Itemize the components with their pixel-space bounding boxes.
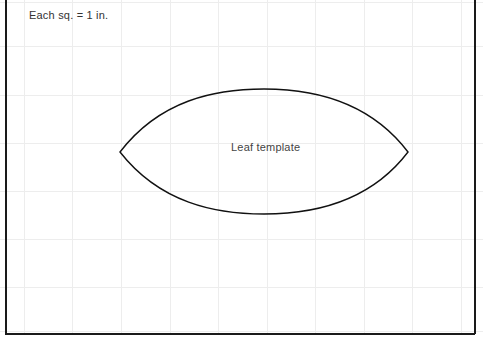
worksheet-page: Each sq. = 1 in. Leaf template — [0, 0, 483, 346]
leaf-template-drawing — [0, 0, 483, 346]
scale-note-label: Each sq. = 1 in. — [29, 9, 108, 21]
leaf-template-label: Leaf template — [231, 141, 300, 153]
